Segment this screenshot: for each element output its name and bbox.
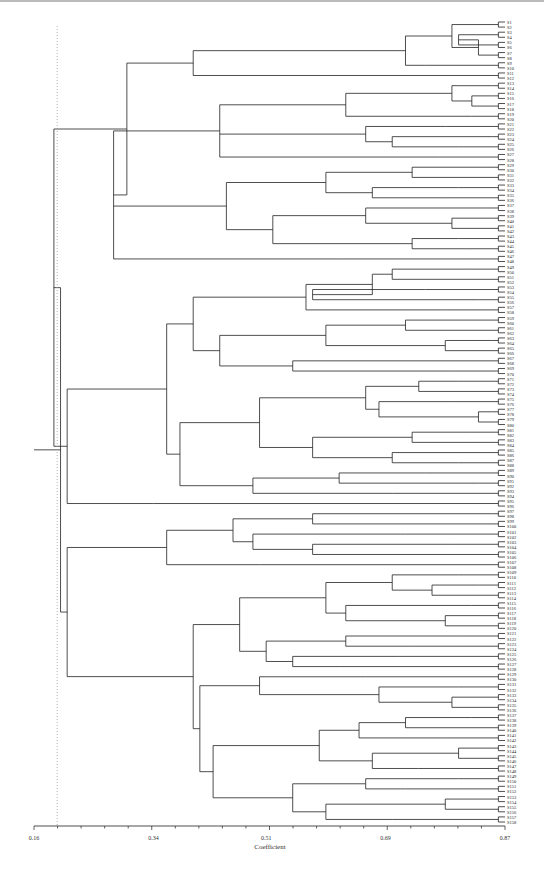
x-axis: 0.160.340.510.690.87 [29,826,511,841]
dendrogram-chart: S1S2S3S4S5S6S7S8S9S10S11S12S13S14S15S16S… [0,0,544,886]
leaf-labels: S1S2S3S4S5S6S7S8S9S10S11S12S13S14S15S16S… [507,20,517,825]
x-tick-label: 0.69 [380,835,391,841]
x-tick-label: 0.16 [29,835,40,841]
x-tick-label: 0.51 [261,835,272,841]
dendrogram-links [34,22,505,822]
x-tick-label: 0.34 [148,835,159,841]
x-tick-label: 0.87 [500,835,511,841]
x-axis-title: Coefficient [240,843,300,851]
leaf-label: S158 [507,820,517,825]
